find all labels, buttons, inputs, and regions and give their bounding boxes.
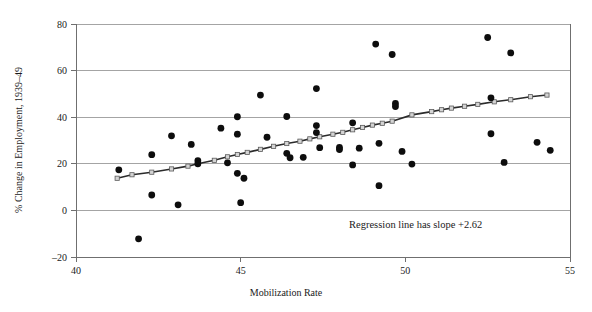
regression-marker-17 — [341, 130, 345, 134]
regression-marker-20 — [370, 123, 374, 127]
data-point-31 — [372, 41, 379, 48]
regression-marker-32 — [545, 93, 549, 97]
regression-marker-4 — [186, 164, 190, 168]
y-tick-label-80: 80 — [57, 19, 67, 30]
data-point-21 — [300, 154, 307, 161]
regression-marker-24 — [430, 110, 434, 114]
regression-marker-30 — [509, 98, 513, 102]
x-tick-label-45: 45 — [236, 265, 246, 276]
data-point-27 — [336, 146, 343, 153]
y-tick-label-20: 20 — [57, 158, 67, 169]
regression-marker-19 — [360, 125, 364, 129]
data-point-20 — [287, 154, 294, 161]
data-point-42 — [507, 49, 514, 56]
data-point-36 — [392, 103, 399, 110]
data-point-5 — [175, 201, 182, 208]
scatter-plot-figure: 40455055 –20020406080 Regression line ha… — [0, 0, 592, 312]
data-point-22 — [313, 85, 320, 92]
data-point-45 — [547, 147, 554, 154]
regression-marker-11 — [272, 144, 276, 148]
y-tick-label-0: 0 — [62, 205, 67, 216]
data-point-17 — [264, 134, 271, 141]
data-point-29 — [349, 162, 356, 169]
chart-background — [0, 0, 592, 312]
regression-marker-23 — [410, 113, 414, 117]
y-axis-title: % Change in Employment, 1939–49 — [13, 67, 24, 213]
regression-marker-12 — [285, 141, 289, 145]
data-point-9 — [218, 125, 225, 132]
regression-marker-9 — [245, 150, 249, 154]
data-point-2 — [148, 192, 155, 199]
data-point-34 — [389, 51, 396, 58]
data-point-18 — [283, 113, 290, 120]
regression-marker-18 — [351, 128, 355, 132]
y-tick-label--20: –20 — [51, 252, 67, 263]
data-point-30 — [356, 145, 363, 152]
data-point-10 — [224, 159, 231, 166]
regression-marker-14 — [308, 137, 312, 141]
data-point-15 — [241, 175, 248, 182]
regression-marker-25 — [439, 108, 443, 112]
regression-marker-0 — [115, 176, 119, 180]
y-tick-label-60: 60 — [57, 65, 67, 76]
data-point-13 — [234, 170, 241, 177]
regression-marker-22 — [390, 119, 394, 123]
y-tick-label-40: 40 — [57, 112, 67, 123]
regression-marker-13 — [298, 139, 302, 143]
data-point-14 — [237, 199, 244, 206]
regression-marker-26 — [449, 106, 453, 110]
regression-slope-annotation: Regression line has slope +2.62 — [349, 219, 482, 230]
regression-marker-21 — [380, 121, 384, 125]
data-point-8 — [194, 160, 201, 167]
data-point-6 — [188, 141, 195, 148]
data-point-44 — [534, 139, 541, 146]
regression-marker-7 — [225, 155, 229, 159]
regression-marker-3 — [169, 167, 173, 171]
data-point-25 — [316, 144, 323, 151]
regression-marker-6 — [212, 158, 216, 162]
data-point-4 — [168, 132, 175, 139]
data-point-24 — [313, 129, 320, 136]
regression-marker-8 — [235, 152, 239, 156]
data-point-38 — [409, 161, 416, 168]
regression-marker-2 — [150, 170, 154, 174]
regression-marker-1 — [130, 173, 134, 177]
data-point-23 — [313, 122, 320, 129]
x-axis-title: Mobilization Rate — [250, 287, 323, 298]
chart-canvas: 40455055 –20020406080 Regression line ha… — [0, 0, 592, 312]
data-point-16 — [257, 92, 264, 99]
regression-marker-28 — [476, 102, 480, 106]
data-point-28 — [349, 119, 356, 126]
data-point-11 — [234, 113, 241, 120]
data-point-1 — [135, 235, 142, 242]
x-tick-label-55: 55 — [565, 265, 575, 276]
x-tick-label-40: 40 — [71, 265, 81, 276]
data-point-40 — [488, 94, 495, 101]
regression-marker-27 — [463, 104, 467, 108]
data-point-37 — [399, 148, 406, 155]
data-point-33 — [376, 182, 383, 189]
regression-marker-31 — [528, 95, 532, 99]
data-point-0 — [115, 166, 122, 173]
regression-marker-10 — [258, 147, 262, 151]
regression-marker-16 — [331, 132, 335, 136]
data-point-3 — [148, 151, 155, 158]
data-point-39 — [484, 34, 491, 41]
data-point-41 — [488, 130, 495, 137]
data-point-43 — [501, 159, 508, 166]
data-point-12 — [234, 131, 241, 138]
x-tick-label-50: 50 — [400, 265, 410, 276]
data-point-32 — [376, 140, 383, 147]
